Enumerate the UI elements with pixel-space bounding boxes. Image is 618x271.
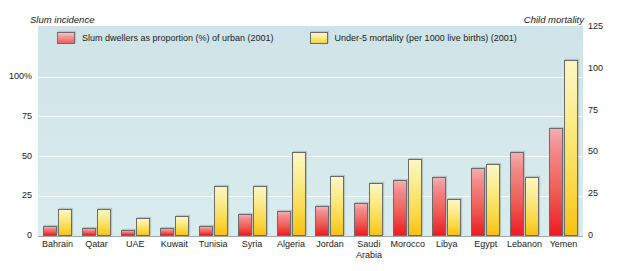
- bar-slum[interactable]: [354, 203, 368, 236]
- chart-legend: Slum dwellers as proportion (%) of urban…: [38, 26, 583, 50]
- legend-label-slum: Slum dwellers as proportion (%) of urban…: [82, 33, 274, 43]
- bar-slum[interactable]: [277, 211, 291, 236]
- bar-group: [233, 26, 272, 236]
- bar-group: [349, 26, 388, 236]
- bar-group: [505, 26, 544, 236]
- legend-label-mortality: Under-5 mortality (per 1000 live births)…: [335, 33, 517, 43]
- legend-entry-slum[interactable]: Slum dwellers as proportion (%) of urban…: [57, 32, 274, 44]
- right-tick-label: 50: [588, 146, 618, 156]
- bar-group: [77, 26, 116, 236]
- left-axis-caption: Slum incidence: [30, 14, 94, 25]
- bar-slum[interactable]: [549, 128, 563, 236]
- bar-mortality[interactable]: [564, 60, 578, 236]
- bar-group: [544, 26, 583, 236]
- bar-group: [272, 26, 311, 236]
- bar-slum[interactable]: [510, 152, 524, 236]
- legend-swatch-slum-icon: [57, 32, 75, 44]
- bar-slum[interactable]: [471, 168, 485, 236]
- right-tick-label: 0: [588, 230, 618, 240]
- bar-mortality[interactable]: [408, 159, 422, 236]
- bar-mortality[interactable]: [292, 152, 306, 236]
- bar-slum[interactable]: [315, 206, 329, 236]
- category-label: Yemen: [538, 239, 589, 250]
- bar-mortality[interactable]: [58, 209, 72, 236]
- bar-mortality[interactable]: [253, 186, 267, 236]
- left-tick-label: 75: [2, 111, 32, 121]
- bar-slum[interactable]: [393, 180, 407, 236]
- right-axis-caption: Child mortality: [524, 14, 584, 25]
- bar-mortality[interactable]: [175, 216, 189, 236]
- bar-mortality[interactable]: [330, 176, 344, 236]
- bar-group: [38, 26, 77, 236]
- bar-slum[interactable]: [432, 177, 446, 236]
- chart-container: Slum incidence Child mortality 100%75502…: [0, 0, 618, 271]
- bar-group: [311, 26, 350, 236]
- legend-entry-mortality[interactable]: Under-5 mortality (per 1000 live births)…: [310, 32, 517, 44]
- right-tick-label: 100: [588, 63, 618, 73]
- axis-baseline: [38, 236, 583, 237]
- bar-mortality[interactable]: [447, 199, 461, 236]
- bar-mortality[interactable]: [136, 218, 150, 236]
- left-tick-label: 50: [2, 151, 32, 161]
- bar-group: [155, 26, 194, 236]
- left-tick-label: 25: [2, 190, 32, 200]
- bar-mortality[interactable]: [486, 164, 500, 236]
- bar-group: [194, 26, 233, 236]
- left-tick-label: 100%: [2, 71, 32, 81]
- bar-group: [116, 26, 155, 236]
- bar-mortality[interactable]: [525, 177, 539, 236]
- bar-mortality[interactable]: [214, 186, 228, 236]
- bar-slum[interactable]: [199, 226, 213, 236]
- bar-group: [427, 26, 466, 236]
- left-tick-label: 0: [2, 230, 32, 240]
- right-tick-label: 75: [588, 105, 618, 115]
- legend-swatch-mortality-icon: [310, 32, 328, 44]
- bar-slum[interactable]: [238, 214, 252, 236]
- right-tick-label: 25: [588, 188, 618, 198]
- plot-area: [38, 26, 583, 236]
- bar-group: [388, 26, 427, 236]
- bar-slum[interactable]: [82, 228, 96, 236]
- bar-group: [466, 26, 505, 236]
- bar-mortality[interactable]: [97, 209, 111, 236]
- bar-slum[interactable]: [160, 228, 174, 236]
- bar-slum[interactable]: [43, 226, 57, 236]
- bar-mortality[interactable]: [369, 183, 383, 237]
- right-tick-label: 125: [588, 21, 618, 31]
